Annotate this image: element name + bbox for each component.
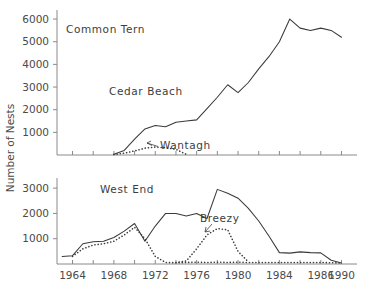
xtick-label: 1972 bbox=[142, 269, 169, 281]
y-axis-title: Number of Nests bbox=[4, 104, 16, 192]
xtick-label: 1980 bbox=[225, 269, 252, 281]
series-label-breezy: Breezy bbox=[200, 212, 240, 224]
bottom-panel-ytick-label: 3000 bbox=[22, 182, 49, 194]
leader-arrow-wantagh bbox=[147, 141, 152, 146]
top-panel-ytick-label: 1000 bbox=[22, 126, 49, 138]
nest-count-figure: 1000200030004000500060001000200030001964… bbox=[0, 0, 369, 288]
top-panel-ytick-label: 5000 bbox=[22, 35, 49, 47]
panel-label-west-end: West End bbox=[100, 183, 154, 195]
xtick-label: 1968 bbox=[101, 269, 128, 281]
xtick-label: 1964 bbox=[59, 269, 86, 281]
bottom-panel-ytick-label: 1000 bbox=[22, 232, 49, 244]
top-panel-ytick-label: 2000 bbox=[22, 103, 49, 115]
top-panel-ytick-label: 6000 bbox=[22, 13, 49, 25]
xtick-label: 1990 bbox=[328, 269, 355, 281]
series-label-cedar-beach: Cedar Beach bbox=[109, 85, 183, 97]
top-panel-ytick-label: 4000 bbox=[22, 58, 49, 70]
series-line-west-end bbox=[62, 189, 341, 263]
xtick-label: 1976 bbox=[183, 269, 210, 281]
xtick-label: 1984 bbox=[266, 269, 293, 281]
series-line-breezy bbox=[73, 227, 342, 263]
series-label-wantagh: Wantagh bbox=[160, 139, 211, 151]
top-panel-ytick-label: 3000 bbox=[22, 81, 49, 93]
panel-label-common-tern: Common Tern bbox=[66, 23, 145, 35]
series-line-breezy-secondary-rise bbox=[176, 229, 248, 263]
bottom-panel-ytick-label: 2000 bbox=[22, 207, 49, 219]
